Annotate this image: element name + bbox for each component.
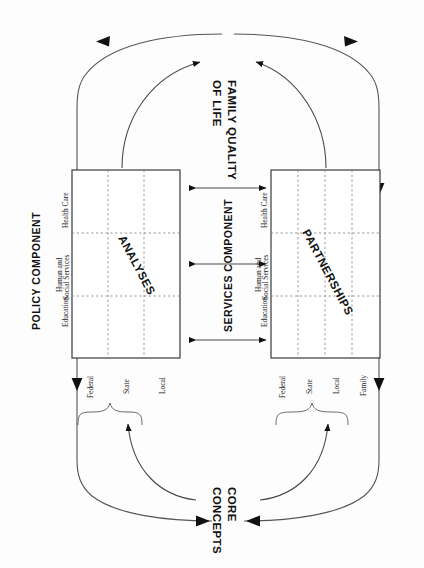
inner-curve-bottom-left (128, 424, 196, 500)
inner-curve-bottom-right (260, 424, 328, 500)
matrix-partnerships[interactable]: PARTNERSHIPS Education Human and Social … (254, 170, 380, 425)
partnerships-brace (276, 403, 348, 425)
analyses-col-education: Education (61, 297, 70, 327)
policy-component-text: POLICY COMPONENT (30, 212, 42, 330)
analyses-col-social-services: Social Services (62, 255, 71, 300)
title-top-line2: OF LIFE (211, 80, 223, 127)
analyses-brace (78, 403, 142, 425)
partnerships-col-education: Education (260, 297, 269, 327)
title-family-quality-of-life: FAMILY QUALITY OF LIFE (211, 80, 238, 180)
partnerships-row-federal: Federal (278, 376, 287, 398)
partnerships-row-family: Family (359, 375, 368, 396)
arrowhead-top-left (96, 36, 110, 47)
title-bottom-line2: CONCEPTS (211, 487, 223, 554)
label-services-component: SERVICES COMPONENT (222, 199, 234, 332)
title-core-concepts: CORE CONCEPTS (211, 487, 238, 554)
arrowhead-into-core-right (246, 515, 260, 526)
analyses-row-local: Local (158, 377, 167, 394)
family-quality-of-life-diagram: FAMILY QUALITY OF LIFE CORE CONCEPTS POL… (0, 0, 424, 568)
diagram-canvas: FAMILY QUALITY OF LIFE CORE CONCEPTS POL… (0, 0, 424, 568)
analyses-col-health-care: Health Care (61, 192, 70, 228)
analyses-row-federal: Federal (86, 376, 95, 398)
services-component-text: SERVICES COMPONENT (222, 199, 234, 332)
label-policy-component: POLICY COMPONENT (30, 212, 42, 330)
partnerships-row-state: State (305, 379, 314, 394)
partnerships-col-social-services: Social Services (261, 255, 270, 300)
inner-curve-top-right (256, 62, 326, 168)
arrowhead-left-rail-lower (72, 378, 83, 391)
partnerships-col-health-care: Health Care (260, 192, 269, 228)
analyses-row-state: State (122, 379, 131, 394)
partnerships-row-local: Local (332, 377, 341, 394)
arrowhead-top-right (344, 36, 358, 47)
analyses-box[interactable] (72, 170, 180, 358)
inner-curve-top-left (122, 62, 200, 168)
title-bottom-line1: CORE (226, 487, 238, 522)
arrowhead-right-rail-lower (374, 378, 385, 391)
arrowhead-into-core-left (196, 515, 210, 526)
matrix-analyses[interactable]: ANALYSES Education Human and Social Serv… (55, 170, 180, 425)
title-top-line1: FAMILY QUALITY (226, 80, 238, 180)
